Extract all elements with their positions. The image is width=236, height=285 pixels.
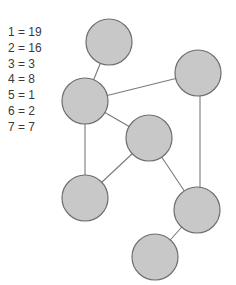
- node-center: [126, 115, 172, 161]
- node-left-mid: [62, 78, 108, 124]
- node-bottom-left: [62, 175, 108, 221]
- node-top: [86, 19, 132, 65]
- node-bottom-right: [174, 187, 220, 233]
- node-right: [175, 50, 221, 96]
- node-bottom: [132, 234, 178, 280]
- graph-diagram: [0, 0, 236, 285]
- graph-nodes: [62, 19, 221, 280]
